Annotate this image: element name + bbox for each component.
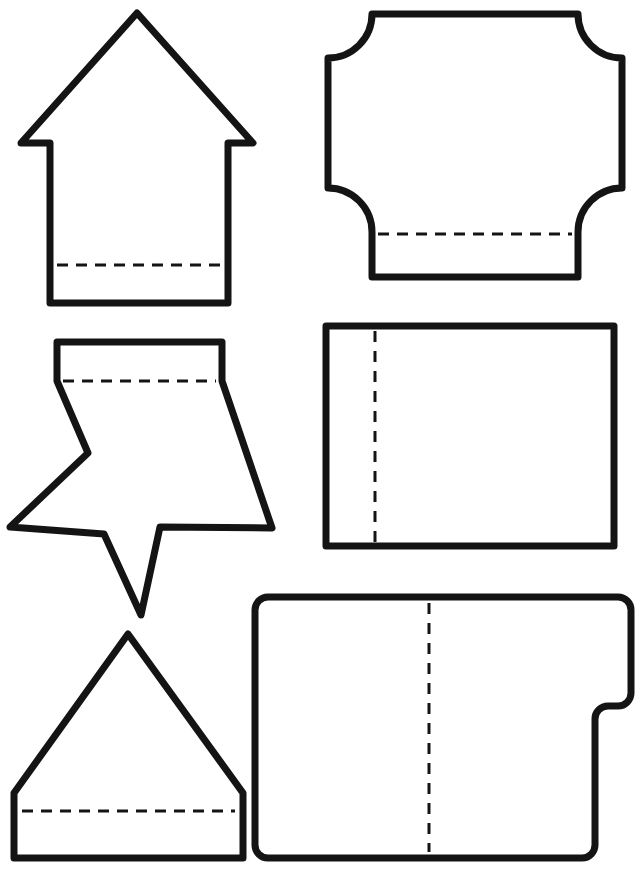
template-sheet: Fold-Tab Shape Template Sheet Up Arrow w… [0, 0, 638, 873]
shape-stepped-rounded-rect[interactable] [255, 597, 631, 858]
stepped-rounded-rect-outline[interactable] [255, 597, 631, 858]
shape-concave-corner-rect[interactable] [328, 14, 622, 277]
shape-plain-rectangle[interactable] [326, 326, 614, 546]
concave-corner-rect-outline[interactable] [328, 14, 622, 277]
shape-canvas [0, 0, 638, 873]
plain-rectangle-outline[interactable] [326, 326, 614, 546]
